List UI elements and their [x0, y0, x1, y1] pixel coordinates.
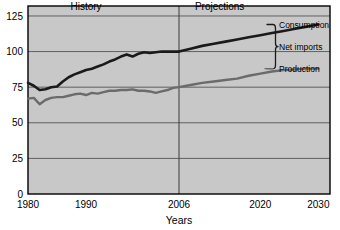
y-tick-100: 100 [6, 46, 23, 57]
energy-outlook-line-chart: 0255075100125 19801990200620202030 Years… [0, 0, 340, 230]
y-tick-0: 0 [17, 189, 23, 200]
y-tick-50: 50 [12, 117, 24, 128]
y-tick-25: 25 [12, 153, 24, 164]
chart-figure: 0255075100125 19801990200620202030 Years… [0, 0, 340, 230]
x-tick-2030: 2030 [307, 199, 330, 210]
projections-annotation: Projections [195, 1, 244, 12]
x-tick-1980: 1980 [17, 199, 40, 210]
x-axis-title: Years [166, 214, 192, 226]
x-tick-2006: 2006 [168, 199, 191, 210]
y-tick-75: 75 [12, 82, 24, 93]
x-tick-2020: 2020 [249, 199, 272, 210]
y-tick-125: 125 [6, 11, 23, 22]
x-tick-1990: 1990 [75, 199, 98, 210]
history-annotation: History [71, 1, 102, 12]
series-label-production: Production [279, 64, 320, 74]
series-label-net-imports: Net imports [279, 42, 322, 52]
series-label-consumption: Consumption [279, 20, 329, 30]
